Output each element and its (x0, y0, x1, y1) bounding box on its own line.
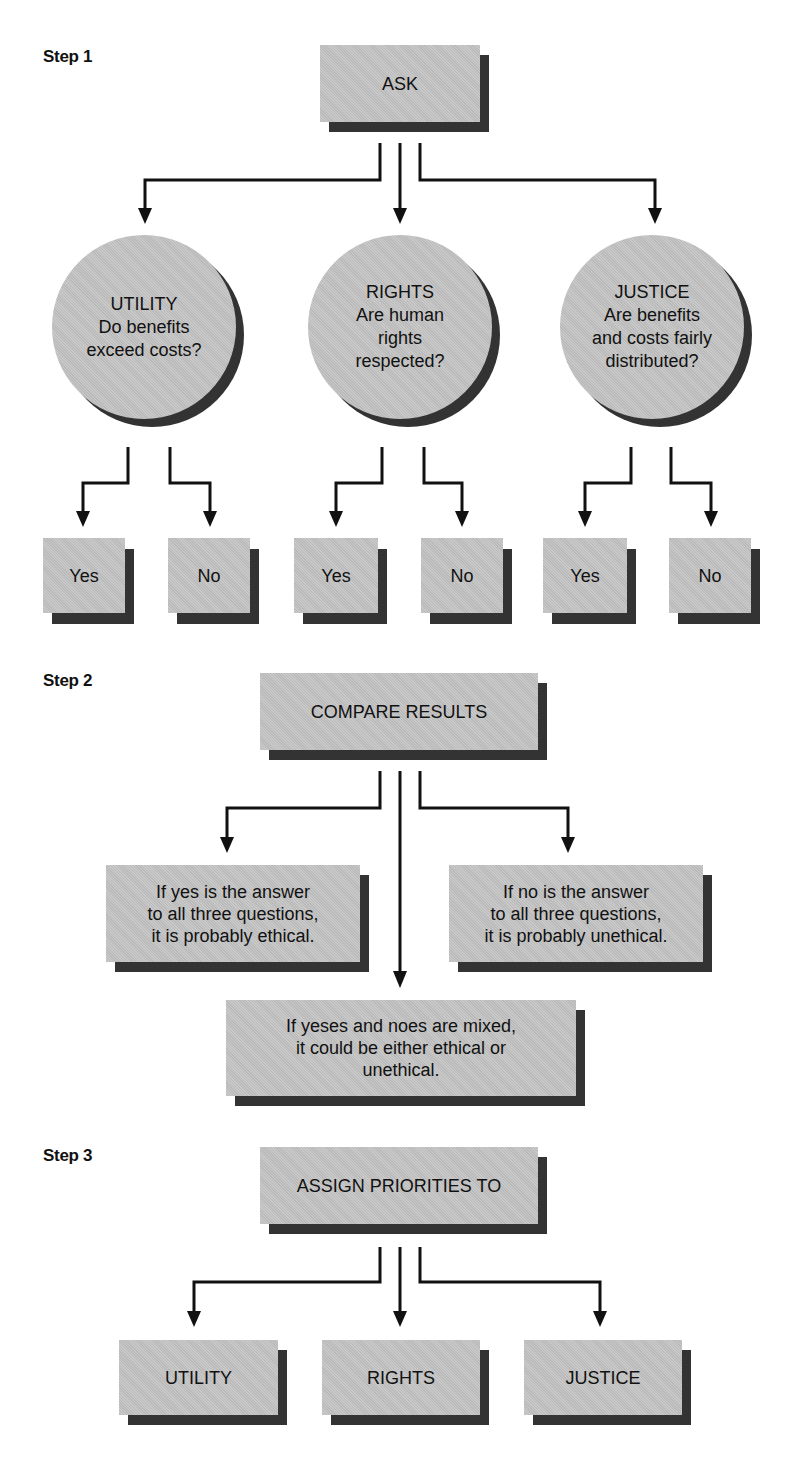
answer-label: Yes (321, 565, 350, 587)
priority-label: JUSTICE (565, 1367, 640, 1389)
answer-label: No (197, 565, 220, 587)
justice-no-box: No (669, 538, 751, 613)
rights-yes-box: Yes (294, 538, 378, 613)
all-no-line: to all three questions, (490, 903, 661, 925)
all-no-line: it is probably unethical. (484, 925, 667, 947)
justice-question-line: Are benefits (604, 304, 700, 327)
justice-yes-box: Yes (543, 538, 627, 613)
rights-no-box: No (421, 538, 503, 613)
answer-label: No (450, 565, 473, 587)
step-3-label: Step 3 (43, 1146, 92, 1166)
justice-question-line: distributed? (605, 350, 698, 373)
mixed-line: unethical. (362, 1059, 439, 1081)
utility-yes-box: Yes (43, 538, 125, 613)
answer-label: Yes (570, 565, 599, 587)
rights-question-line: rights (378, 327, 422, 350)
rights-title: RIGHTS (366, 281, 434, 304)
all-yes-line: to all three questions, (147, 903, 318, 925)
all-yes-line: it is probably ethical. (151, 925, 314, 947)
ask-label: ASK (382, 73, 418, 95)
justice-circle: JUSTICE Are benefits and costs fairly di… (560, 235, 744, 419)
priority-label: RIGHTS (367, 1367, 435, 1389)
utility-no-box: No (168, 538, 250, 613)
priority-utility-box: UTILITY (119, 1340, 278, 1415)
justice-title: JUSTICE (614, 281, 689, 304)
utility-circle: UTILITY Do benefits exceed costs? (52, 235, 236, 419)
mixed-box: If yeses and noes are mixed, it could be… (226, 1000, 576, 1096)
rights-question-line: respected? (355, 350, 444, 373)
answer-label: No (698, 565, 721, 587)
utility-title: UTILITY (110, 293, 177, 316)
assign-priorities-label: ASSIGN PRIORITIES TO (297, 1175, 501, 1197)
compare-results-box: COMPARE RESULTS (260, 673, 538, 750)
ask-box: ASK (320, 45, 480, 122)
all-yes-line: If yes is the answer (156, 881, 310, 903)
rights-question-line: Are human (356, 304, 444, 327)
all-no-box: If no is the answer to all three questio… (449, 865, 703, 962)
all-no-line: If no is the answer (503, 881, 649, 903)
justice-question-line: and costs fairly (592, 327, 712, 350)
step-1-label: Step 1 (43, 47, 92, 67)
mixed-line: If yeses and noes are mixed, (286, 1015, 516, 1037)
utility-question-line: exceed costs? (86, 339, 201, 362)
step-2-label: Step 2 (43, 671, 92, 691)
assign-priorities-box: ASSIGN PRIORITIES TO (260, 1147, 538, 1224)
priority-justice-box: JUSTICE (524, 1340, 682, 1415)
priority-label: UTILITY (165, 1367, 232, 1389)
priority-rights-box: RIGHTS (322, 1340, 480, 1415)
all-yes-box: If yes is the answer to all three questi… (106, 865, 360, 962)
answer-label: Yes (69, 565, 98, 587)
rights-circle: RIGHTS Are human rights respected? (308, 235, 492, 419)
compare-results-label: COMPARE RESULTS (311, 701, 487, 723)
mixed-line: it could be either ethical or (296, 1037, 506, 1059)
utility-question-line: Do benefits (98, 316, 189, 339)
